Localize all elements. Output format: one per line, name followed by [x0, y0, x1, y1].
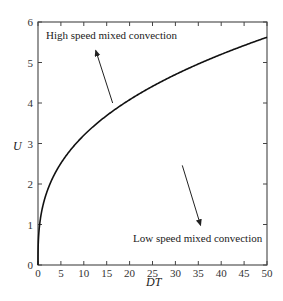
x-tick-label: 45	[239, 267, 251, 279]
x-tick-label: 30	[170, 267, 182, 279]
x-axis-title: DT	[145, 275, 163, 289]
x-tick-label: 15	[101, 267, 113, 279]
x-tick-label: 50	[262, 267, 274, 279]
x-tick-label: 40	[216, 267, 228, 279]
data-curve	[38, 37, 267, 265]
high-speed-label: High speed mixed convection	[46, 29, 178, 41]
high-speed-arrow	[96, 50, 113, 103]
y-tick-label: 0	[28, 259, 34, 271]
axis-ticks	[38, 22, 267, 265]
low-speed-arrow	[182, 165, 200, 225]
x-tick-label: 20	[124, 267, 136, 279]
x-tick-label: 5	[58, 267, 64, 279]
y-tick-label: 4	[28, 97, 34, 109]
plot-frame	[38, 22, 267, 265]
y-tick-label: 1	[28, 219, 34, 231]
plot-border	[38, 22, 267, 265]
y-tick-label: 2	[28, 178, 34, 190]
x-tick-label: 0	[35, 267, 41, 279]
y-tick-label: 3	[28, 138, 34, 150]
y-tick-label: 5	[28, 57, 34, 69]
low-speed-label: Low speed mixed convection	[133, 232, 263, 244]
line-chart: 051015202530354045500123456 High speed m…	[0, 0, 283, 301]
x-tick-label: 35	[193, 267, 205, 279]
y-axis-title: U	[13, 139, 23, 153]
x-tick-label: 10	[78, 267, 90, 279]
y-tick-label: 6	[28, 16, 34, 28]
